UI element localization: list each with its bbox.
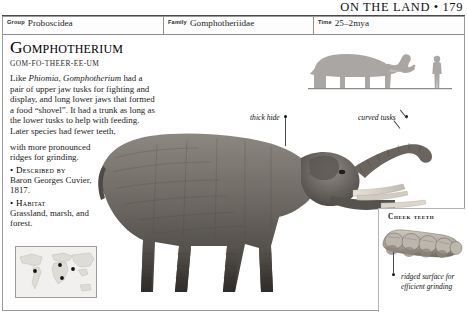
map-dot-asia — [71, 267, 75, 271]
animal-eye — [339, 170, 345, 174]
classification-key-time: Time — [318, 19, 332, 25]
classification-cell-time: Time 25–2mya — [313, 17, 464, 34]
habitat-value: Grassland, marsh, and forest. — [10, 208, 106, 229]
human-silhouette-icon — [432, 56, 441, 88]
entry-title: Gomphotherium — [10, 38, 158, 57]
map-dot-eurasia — [58, 263, 62, 267]
map-dot-north-america — [33, 269, 37, 273]
running-head: ON THE LAND • 179 — [340, 0, 463, 15]
inset-annotation-leader — [393, 252, 394, 274]
classification-bar: Group Proboscidea Family Gomphotheriidae… — [3, 17, 464, 35]
world-map-icon — [16, 247, 96, 297]
classification-value-group: Proboscidea — [28, 18, 73, 28]
distribution-map — [15, 246, 97, 298]
classification-value-time: 25–2mya — [335, 18, 369, 28]
described-by-label: Described by — [16, 165, 66, 175]
annotation-thick-hide: thick hide — [250, 113, 280, 122]
entry-pronunciation: GOM-FO-THEER-EE-UM — [10, 59, 158, 68]
cheek-teeth-icon — [379, 221, 465, 269]
annotation-curved-tusks: curved tusks — [358, 113, 396, 122]
animal-hind-leg-rear — [141, 242, 153, 292]
genus-gomphotherium: Gomphotherium — [63, 73, 121, 83]
classification-value-family: Gomphotheriidae — [190, 18, 254, 28]
animal-ear — [309, 156, 339, 181]
inset-caption: ridged surface for efficient grinding — [401, 272, 465, 291]
annotation-leader-thick-hide — [285, 118, 286, 146]
bullet-icon-habitat: • — [10, 198, 13, 208]
animal-leg-texture — [142, 254, 272, 278]
described-by-value: Baron Georges Cuvier, 1817. — [10, 175, 106, 196]
entry-description-continued: with more pronounced ridges for grinding… — [10, 142, 106, 163]
animal-body — [100, 133, 320, 292]
animal-fore-leg-front — [259, 246, 273, 292]
gomphotherium-silhouette-icon — [310, 54, 415, 88]
cheek-teeth-artwork — [379, 221, 465, 269]
cheek-teeth-inset: Cheek teeth — [378, 208, 465, 312]
scale-diagram-svg — [300, 38, 460, 98]
genus-phiomia: Phiomia — [28, 73, 58, 83]
classification-key-family: Family — [168, 19, 187, 25]
map-dot-africa — [60, 276, 64, 280]
inset-title: Cheek teeth — [388, 213, 434, 221]
habitat-label: Habitat — [16, 198, 45, 208]
classification-cell-group: Group Proboscidea — [3, 17, 163, 34]
classification-key-group: Group — [7, 19, 25, 25]
book-page: ON THE LAND • 179 Group Proboscidea Fami… — [0, 0, 467, 313]
animal-fore-leg-rear — [223, 245, 239, 292]
description-lead: Like — [10, 73, 28, 83]
animal-hind-leg-front — [175, 246, 191, 292]
scale-comparison-diagram — [300, 38, 460, 98]
bullet-icon-described-by: • — [10, 165, 13, 175]
classification-cell-family: Family Gomphotheriidae — [163, 17, 313, 34]
